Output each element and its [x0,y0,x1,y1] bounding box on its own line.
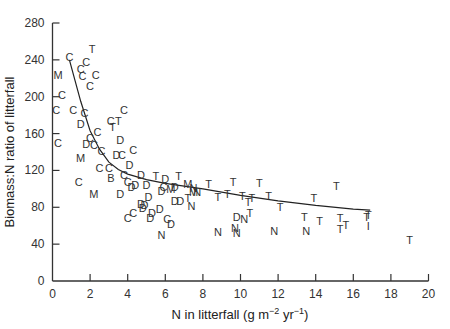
y-axis-label: Biomass:N ratio of litterfall [2,76,17,227]
data-point-t: T [256,177,263,189]
data-point-t: T [406,234,413,246]
data-point-t: T [265,190,272,202]
data-point-m: M [89,188,98,200]
data-point-t: T [230,176,237,188]
x-tick-label: 14 [309,287,323,301]
data-point-t: T [333,180,340,192]
y-tick-label: 240 [24,53,44,67]
x-tick-label: 18 [384,287,398,301]
data-point-d: D [131,179,139,191]
data-point-c: C [54,137,62,149]
data-point-t: T [109,121,116,133]
data-point-d: D [143,179,151,191]
data-point-t: T [247,207,254,219]
data-point-t: T [301,211,308,223]
data-point-d: D [116,188,124,200]
chart-canvas: 0246810121416182004080120160200240280 CT… [0,0,450,329]
scatter-chart: 0246810121416182004080120160200240280 CT… [0,0,450,329]
x-tick-label: 16 [347,287,361,301]
data-point-c: C [65,51,73,63]
data-point-t: T [89,43,96,55]
data-point-t: T [310,192,317,204]
data-point-c: C [97,145,105,157]
x-tick-label: 10 [234,287,248,301]
data-point-d: D [144,191,152,203]
data-point-n: N [190,182,198,194]
data-point-t: T [277,201,284,213]
y-tick-label: 40 [31,237,45,251]
y-tick-label: 160 [24,127,44,141]
data-point-c: C [69,104,77,116]
data-point-d: D [176,195,184,207]
data-point-t: T [248,192,255,204]
data-point-d: D [137,198,145,210]
data-point-d: D [171,181,179,193]
data-point-t: T [342,219,349,231]
data-point-c: C [58,89,66,101]
data-point-d: D [77,118,85,130]
data-point-i: I [367,220,370,232]
data-point-c: C [75,176,83,188]
data-point-d: D [126,159,134,171]
data-point-c: C [94,126,102,138]
x-tick-label: 6 [162,287,169,301]
data-point-n: N [302,225,310,237]
data-point-b: B [107,172,114,184]
y-tick-label: 80 [31,200,45,214]
fit-curve-line [69,60,370,210]
x-tick-label: 0 [49,287,56,301]
x-axis-label: N in litterfall (g m−2 yr−1) [172,306,309,322]
x-tick-label: 20 [422,287,436,301]
data-point-t: T [215,191,222,203]
data-point-c: C [118,149,126,161]
x-tick-label: 2 [87,287,94,301]
x-tick-label: 12 [271,287,285,301]
x-tick-label: 8 [200,287,207,301]
data-point-n: N [158,229,166,241]
y-tick-label: 0 [38,274,45,288]
data-point-c: C [129,144,137,156]
data-point-d: D [158,185,166,197]
data-point-n: N [214,226,222,238]
data-point-d: D [146,212,154,224]
data-point-t: T [224,188,231,200]
data-point-m: M [54,69,63,81]
data-point-c: C [96,162,104,174]
data-point-t: T [205,178,212,190]
data-point-t: T [337,223,344,235]
x-tick-label: 4 [124,287,131,301]
data-point-c: C [86,80,94,92]
y-tick-label: 200 [24,90,44,104]
y-tick-label: 120 [24,163,44,177]
data-point-n: N [188,200,196,212]
y-tick-label: 280 [24,16,44,30]
data-point-c: C [52,104,60,116]
data-point-n: N [233,227,241,239]
data-point-t: T [316,215,323,227]
fit-curve [69,60,370,210]
data-point-d: D [116,134,124,146]
data-point-d: D [167,218,175,230]
data-point-n: N [270,225,278,237]
data-point-m: M [76,152,85,164]
data-points: CTCCMCCCCCCCDCCTTCCDCCDMCCMDCCBCDCDCDCCC… [52,43,413,246]
